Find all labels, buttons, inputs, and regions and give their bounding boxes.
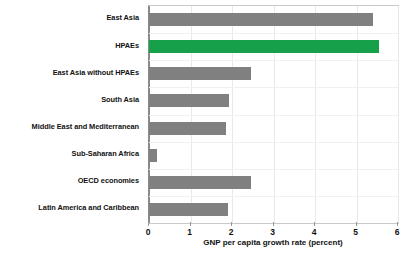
bar-sub-saharan-africa[interactable] — [149, 149, 157, 162]
bar-row — [149, 6, 398, 33]
x-tick-label: 5 — [353, 227, 358, 237]
bars-layer — [149, 6, 398, 223]
bar-chart: East Asia HPAEs East Asia without HPAEs … — [0, 0, 410, 254]
category-label-row: South Asia — [0, 86, 143, 113]
category-label-latin-america-and-caribbean: Latin America and Caribbean — [38, 204, 139, 212]
bar-row — [149, 196, 398, 223]
category-label-row: Sub-Saharan Africa — [0, 141, 143, 168]
category-label-east-asia-without-hpaes: East Asia without HPAEs — [53, 69, 139, 77]
bar-row — [149, 169, 398, 196]
x-tick-mark — [314, 222, 315, 226]
plot-area — [148, 5, 399, 224]
bar-row — [149, 33, 398, 60]
x-tick-mark — [273, 222, 274, 226]
category-label-row: OECD economies — [0, 168, 143, 195]
x-tick-label: 0 — [146, 227, 151, 237]
bar-south-asia[interactable] — [149, 94, 229, 107]
category-label-south-asia: South Asia — [101, 96, 139, 104]
x-tick-mark — [148, 222, 149, 226]
category-label-east-asia: East Asia — [106, 14, 139, 22]
x-axis-title: GNP per capita growth rate (percent) — [148, 238, 398, 247]
category-label-oecd-economies: OECD economies — [78, 177, 139, 185]
category-label-row: Middle East and Mediterranean — [0, 114, 143, 141]
x-tick-label: 1 — [187, 227, 192, 237]
category-label-row: East Asia without HPAEs — [0, 59, 143, 86]
bar-hpaes[interactable] — [149, 40, 379, 53]
x-tick-mark — [190, 222, 191, 226]
category-axis: East Asia HPAEs East Asia without HPAEs … — [0, 5, 143, 222]
category-label-row: Latin America and Caribbean — [0, 195, 143, 222]
category-label-sub-saharan-africa: Sub-Saharan Africa — [72, 150, 139, 158]
x-tick-label: 4 — [312, 227, 317, 237]
x-tick-mark — [231, 222, 232, 226]
category-label-hpaes: HPAEs — [115, 42, 139, 50]
bar-row — [149, 60, 398, 87]
x-tick-label: 3 — [270, 227, 275, 237]
category-label-row: HPAEs — [0, 32, 143, 59]
x-tick-label: 2 — [229, 227, 234, 237]
bar-oecd-economies[interactable] — [149, 176, 251, 189]
bar-middle-east-and-mediterranean[interactable] — [149, 122, 226, 135]
bar-east-asia-without-hpaes[interactable] — [149, 67, 251, 80]
vertical-gridline — [398, 6, 399, 223]
bar-row — [149, 87, 398, 114]
category-label-middle-east-and-mediterranean: Middle East and Mediterranean — [32, 123, 139, 131]
bar-row — [149, 142, 398, 169]
bar-row — [149, 115, 398, 142]
category-label-row: East Asia — [0, 5, 143, 32]
bar-latin-america-and-caribbean[interactable] — [149, 203, 228, 216]
x-tick-label: 6 — [395, 227, 400, 237]
bar-east-asia[interactable] — [149, 13, 373, 26]
x-tick-mark — [356, 222, 357, 226]
x-tick-mark — [397, 222, 398, 226]
